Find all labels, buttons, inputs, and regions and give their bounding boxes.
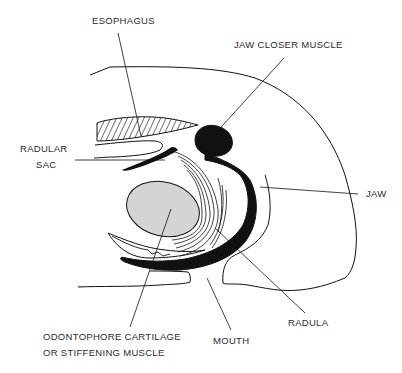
esophagus-label: ESOPHAGUS bbox=[92, 16, 155, 26]
jaw-closer-muscle-shape bbox=[195, 125, 232, 156]
mouth-floor bbox=[78, 271, 190, 287]
jaw-label: JAW bbox=[366, 189, 387, 199]
jaw-closer-muscle-label: JAW CLOSER MUSCLE bbox=[234, 40, 343, 50]
lower-jaw-teeth bbox=[112, 236, 170, 256]
mouth-label: MOUTH bbox=[213, 336, 249, 346]
mollusc-mouth-diagram bbox=[0, 0, 402, 373]
upper-jaw-plate bbox=[122, 147, 178, 171]
radular-sac-label-line1: RADULAR bbox=[20, 144, 68, 154]
odontophore-label-line1: ODONTOPHORE CARTILAGE bbox=[43, 332, 181, 342]
radular-sac-shape bbox=[94, 141, 162, 158]
odontophore-label-line2: OR STIFFENING MUSCLE bbox=[43, 348, 165, 358]
lower-jaw-flap bbox=[108, 233, 205, 258]
radular-sac-label-line2: SAC bbox=[36, 160, 56, 170]
esophagus-shape bbox=[97, 117, 198, 141]
leader-lines bbox=[75, 33, 358, 330]
radula-label: RADULA bbox=[288, 318, 328, 328]
